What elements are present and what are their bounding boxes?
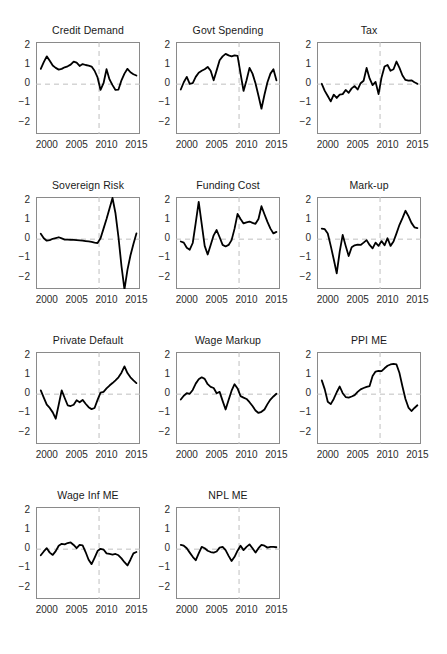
plot-area — [176, 507, 280, 599]
panel-title: Funding Cost — [176, 179, 280, 191]
y-axis-tick-label: −2 — [283, 116, 311, 127]
data-series-line — [181, 202, 277, 255]
data-series-line — [181, 54, 277, 109]
chart-panel: Credit Demand210−1−22000200520102015 — [2, 22, 156, 160]
y-axis-tick-label: −1 — [283, 406, 311, 417]
x-axis-tick-label: 2015 — [256, 604, 296, 615]
plot-area — [317, 352, 421, 444]
y-axis-tick-label: −2 — [142, 271, 170, 282]
data-series-line — [181, 377, 277, 413]
y-axis-tick-label: 0 — [283, 387, 311, 398]
y-axis-tick-label: −1 — [142, 251, 170, 262]
chart-panel: Sovereign Risk210−1−22000200520102015 — [2, 177, 156, 315]
y-axis-tick-label: 2 — [142, 39, 170, 50]
y-axis-tick-label: 0 — [283, 232, 311, 243]
axis-box — [177, 43, 280, 134]
panel-title: PPI ME — [317, 334, 421, 346]
y-axis-tick-label: −2 — [283, 271, 311, 282]
y-axis-tick-label: 0 — [142, 77, 170, 88]
y-axis-tick-label: 1 — [142, 368, 170, 379]
plot-area — [317, 197, 421, 289]
y-axis-tick-label: 1 — [142, 58, 170, 69]
chart-panel: Mark-up210−1−22000200520102015 — [283, 177, 437, 315]
y-axis-tick-label: −2 — [2, 116, 30, 127]
y-axis-tick-label: 2 — [283, 349, 311, 360]
y-axis-tick-label: 0 — [283, 77, 311, 88]
plot-area — [36, 42, 140, 134]
plot-area — [176, 352, 280, 444]
y-axis-tick-label: 2 — [2, 39, 30, 50]
chart-panel: Govt Spending210−1−22000200520102015 — [142, 22, 296, 160]
y-axis-tick-label: −1 — [2, 406, 30, 417]
y-axis-tick-label: 1 — [2, 523, 30, 534]
y-axis-tick-label: 1 — [283, 58, 311, 69]
y-axis-tick-label: 2 — [142, 194, 170, 205]
y-axis-tick-label: −2 — [142, 581, 170, 592]
y-axis-tick-label: 2 — [2, 349, 30, 360]
data-series-line — [322, 364, 418, 411]
y-axis-tick-label: 0 — [142, 387, 170, 398]
axis-box — [318, 43, 421, 134]
y-axis-tick-label: −1 — [2, 96, 30, 107]
chart-panel: NPL ME210−1−22000200520102015 — [142, 487, 296, 625]
panel-title: Mark-up — [317, 179, 421, 191]
y-axis-tick-label: 0 — [2, 542, 30, 553]
y-axis-tick-label: −2 — [142, 426, 170, 437]
y-axis-tick-label: 0 — [142, 232, 170, 243]
y-axis-tick-label: −1 — [2, 251, 30, 262]
plot-area — [317, 42, 421, 134]
data-series-line — [41, 198, 137, 289]
y-axis-tick-label: 1 — [2, 368, 30, 379]
small-multiples-figure: Credit Demand210−1−22000200520102015Govt… — [0, 0, 447, 654]
data-series-line — [322, 211, 418, 273]
chart-panel: Wage Markup210−1−22000200520102015 — [142, 332, 296, 470]
data-series-line — [181, 544, 277, 561]
y-axis-tick-label: −2 — [2, 581, 30, 592]
y-axis-tick-label: 1 — [2, 58, 30, 69]
panel-title: Govt Spending — [176, 24, 280, 36]
panel-title: Wage Inf ME — [36, 489, 140, 501]
chart-panel: PPI ME210−1−22000200520102015 — [283, 332, 437, 470]
y-axis-tick-label: 2 — [142, 504, 170, 515]
chart-panel: Wage Inf ME210−1−22000200520102015 — [2, 487, 156, 625]
x-axis-tick-label: 2015 — [397, 294, 437, 305]
panel-title: Credit Demand — [36, 24, 140, 36]
y-axis-tick-label: 2 — [283, 39, 311, 50]
plot-area — [176, 197, 280, 289]
x-axis-tick-label: 2015 — [397, 449, 437, 460]
data-series-line — [41, 542, 137, 565]
axis-box — [37, 43, 140, 134]
y-axis-tick-label: −1 — [142, 96, 170, 107]
y-axis-tick-label: −1 — [142, 406, 170, 417]
y-axis-tick-label: 2 — [2, 504, 30, 515]
axis-box — [37, 508, 140, 599]
y-axis-tick-label: 0 — [2, 232, 30, 243]
data-series-line — [322, 62, 418, 102]
y-axis-tick-label: −2 — [142, 116, 170, 127]
y-axis-tick-label: −2 — [283, 426, 311, 437]
y-axis-tick-label: 2 — [283, 194, 311, 205]
y-axis-tick-label: −1 — [142, 561, 170, 572]
plot-area — [36, 197, 140, 289]
panel-title: Sovereign Risk — [36, 179, 140, 191]
panel-title: NPL ME — [176, 489, 280, 501]
y-axis-tick-label: 1 — [283, 368, 311, 379]
plot-area — [36, 352, 140, 444]
data-series-line — [41, 56, 137, 90]
y-axis-tick-label: 2 — [142, 349, 170, 360]
chart-panel: Private Default210−1−22000200520102015 — [2, 332, 156, 470]
panel-title: Tax — [317, 24, 421, 36]
y-axis-tick-label: 1 — [283, 213, 311, 224]
y-axis-tick-label: 0 — [2, 387, 30, 398]
data-series-line — [41, 366, 137, 418]
chart-panel: Funding Cost210−1−22000200520102015 — [142, 177, 296, 315]
axis-box — [37, 198, 140, 289]
x-axis-tick-label: 2015 — [397, 139, 437, 150]
plot-area — [36, 507, 140, 599]
axis-box — [177, 353, 280, 444]
y-axis-tick-label: −1 — [2, 561, 30, 572]
plot-area — [176, 42, 280, 134]
y-axis-tick-label: −1 — [283, 96, 311, 107]
y-axis-tick-label: 0 — [2, 77, 30, 88]
chart-panel: Tax210−1−22000200520102015 — [283, 22, 437, 160]
